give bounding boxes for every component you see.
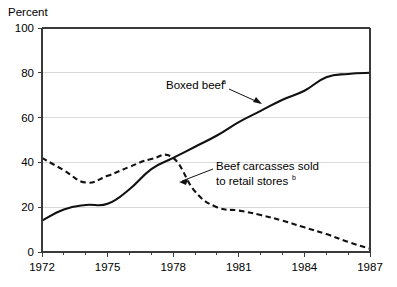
y-tick-label-100: 100 xyxy=(15,22,34,34)
y-tick-label-80: 80 xyxy=(21,67,34,79)
x-tick-label-1972: 1972 xyxy=(29,261,55,273)
annotation-boxed-beef-superscript: a xyxy=(222,78,226,85)
annotation-beef-carcasses-label-line2: to retail stores xyxy=(216,175,288,187)
y-tick-label-60: 60 xyxy=(21,112,34,124)
x-tick-label-1984: 1984 xyxy=(292,261,318,273)
y-tick-label-40: 40 xyxy=(21,156,34,168)
chart-container: 197219751978198119841987 020406080100 Pe… xyxy=(0,0,397,287)
y-tick-label-0: 0 xyxy=(28,246,34,258)
y-tick-label-20: 20 xyxy=(21,201,34,213)
x-tick-label-1987: 1987 xyxy=(357,261,383,273)
x-tick-label-1981: 1981 xyxy=(226,261,252,273)
line-chart: 197219751978198119841987 020406080100 Pe… xyxy=(0,0,397,287)
chart-background xyxy=(0,0,397,287)
annotation-beef-carcasses-superscript: b xyxy=(292,174,296,181)
x-tick-label-1975: 1975 xyxy=(95,261,121,273)
y-axis-title: Percent xyxy=(8,6,48,18)
x-tick-label-1978: 1978 xyxy=(160,261,186,273)
annotation-beef-carcasses-label-line1: Beef carcasses sold xyxy=(216,160,319,172)
annotation-boxed-beef-label: Boxed beef xyxy=(166,79,225,91)
